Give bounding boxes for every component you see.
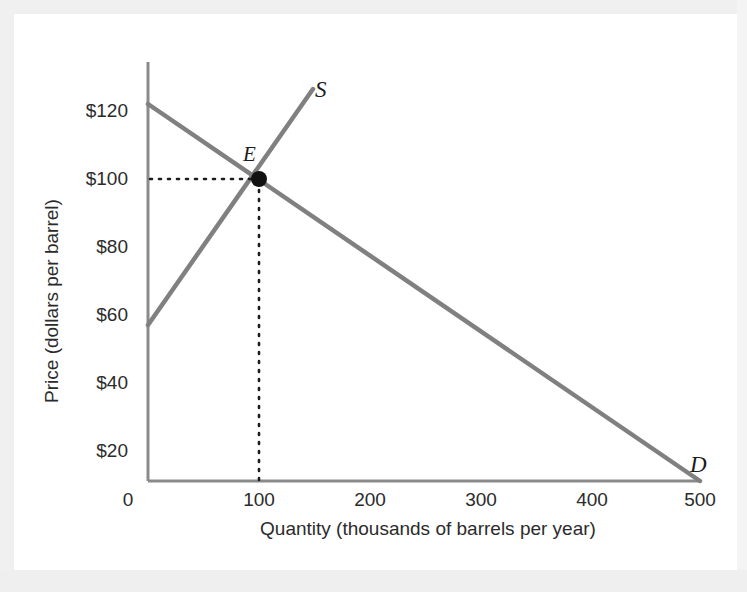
demand-curve: [148, 104, 700, 481]
equilibrium-point-marker: [251, 171, 267, 187]
y-tick-label-120: $120: [58, 100, 128, 122]
y-tick-label-40: $40: [58, 372, 128, 394]
x-tick-label-500: 500: [665, 489, 735, 511]
supply-curve-label: S: [315, 77, 327, 103]
x-tick-label-100: 100: [224, 489, 294, 511]
y-tick-label-60: $60: [58, 304, 128, 326]
y-tick-label-20: $20: [58, 440, 128, 462]
x-tick-label-400: 400: [557, 489, 627, 511]
supply-demand-chart: $120 $100 $80 $60 $40 $20 0 100 200 300 …: [0, 0, 747, 592]
figure-page: $120 $100 $80 $60 $40 $20 0 100 200 300 …: [0, 0, 747, 592]
demand-curve-label: D: [690, 452, 707, 478]
supply-curve: [148, 89, 313, 325]
x-tick-label-300: 300: [446, 489, 516, 511]
y-axis-title: Price (dollars per barrel): [41, 161, 63, 441]
equilibrium-point-label: E: [243, 142, 256, 167]
x-axis-title: Quantity (thousands of barrels per year): [148, 518, 708, 540]
x-tick-label-0: 0: [93, 489, 163, 511]
x-tick-label-200: 200: [335, 489, 405, 511]
y-tick-label-80: $80: [58, 236, 128, 258]
y-tick-label-100: $100: [58, 168, 128, 190]
